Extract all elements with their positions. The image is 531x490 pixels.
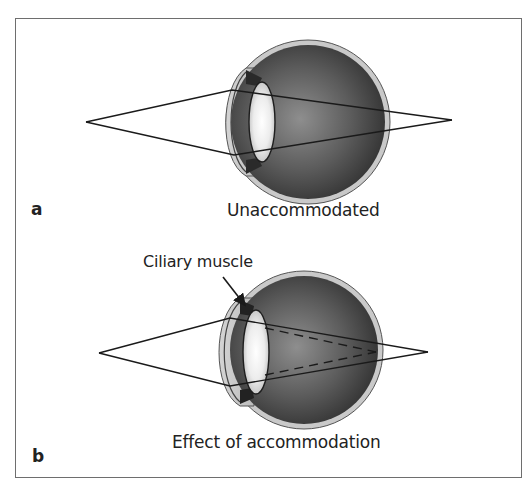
- panel-a-eye: [226, 40, 390, 204]
- panel-b-caption: Effect of accommodation: [172, 432, 381, 452]
- panel-a-caption: Unaccommodated: [227, 200, 380, 220]
- ciliary-muscle-label: Ciliary muscle: [143, 252, 253, 271]
- panel-b-letter: b: [32, 446, 44, 466]
- ciliary-muscle-arrow: [223, 277, 244, 304]
- eye-accommodation-diagram: [0, 0, 531, 490]
- panel-b-eye: [219, 271, 383, 429]
- panel-a-letter: a: [31, 199, 42, 219]
